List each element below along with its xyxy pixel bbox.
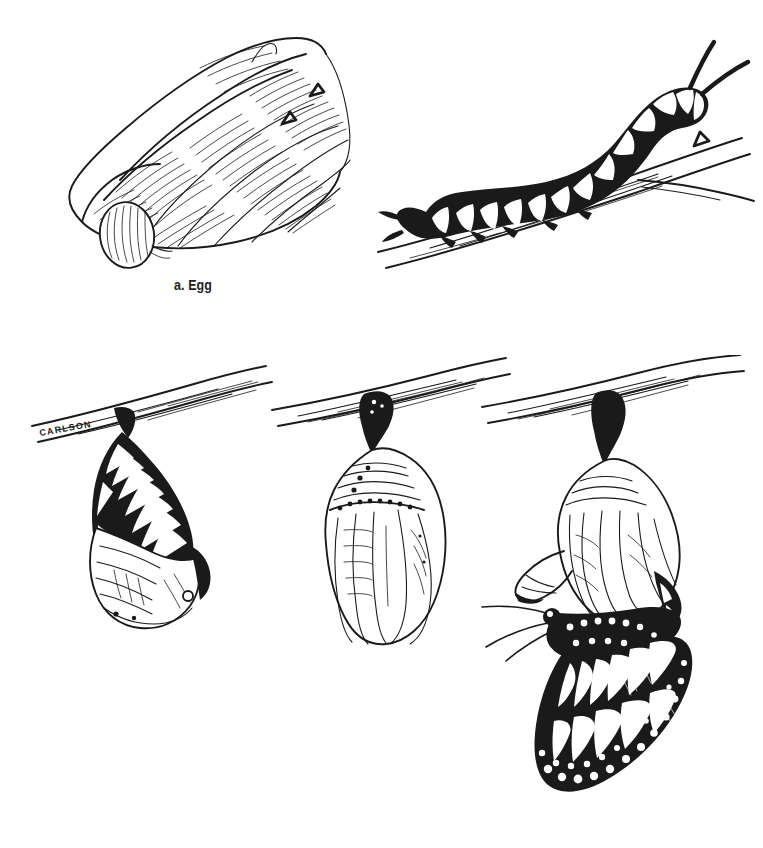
panel-pupa-splitting: CARLSON — [18, 350, 288, 730]
monarch-life-cycle-figure: a. Egg — [0, 0, 763, 848]
cremaster-adult — [591, 390, 625, 465]
empty-chrysalis-shell — [558, 459, 682, 625]
caterpillar-body — [378, 42, 748, 242]
chrysalis-illustration — [268, 350, 513, 680]
caption-egg: a. Egg — [137, 276, 249, 295]
egg-on-leaf-illustration — [0, 0, 390, 280]
antennae — [482, 606, 552, 661]
caterpillar-illustration — [370, 20, 763, 295]
twig-pupa-split: CARLSON — [32, 366, 272, 442]
emerging-butterfly-illustration — [478, 355, 763, 795]
panel-emerging-adult: e. Emerging adult butterfly — [478, 355, 763, 820]
caption-egg-line-1: a. Egg — [137, 276, 249, 295]
cremaster-chrysalis — [359, 391, 393, 454]
panel-chrysalis: d. Pupa (chrysalis) — [268, 350, 513, 710]
butterfly-wings — [535, 636, 693, 791]
panel-egg: a. Egg — [0, 0, 390, 310]
panel-larva: b. Larva (caterpillar) — [370, 20, 763, 310]
pupa-splitting-illustration: CARLSON — [18, 350, 288, 680]
chrysalis-body — [325, 448, 445, 644]
